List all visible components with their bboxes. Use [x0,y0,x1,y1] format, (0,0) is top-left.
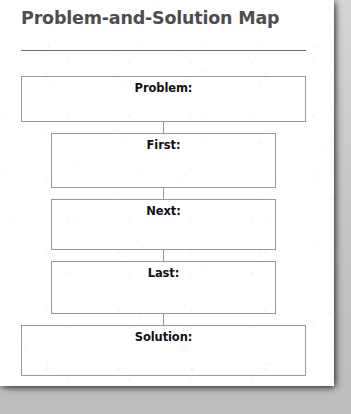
node-first-label: First: [52,138,275,152]
node-solution[interactable]: Solution: [21,325,306,376]
node-next-label: Next: [52,204,275,218]
connector-next-to-last [163,250,164,261]
node-first[interactable]: First: [51,133,276,188]
node-last[interactable]: Last: [51,261,276,314]
node-problem-label: Problem: [22,81,305,95]
connector-last-to-solution [163,314,164,325]
node-next[interactable]: Next: [51,199,276,250]
connector-first-to-next [163,188,164,199]
worksheet-page: Problem-and-Solution Map Problem: First:… [0,0,334,386]
problem-solution-map-diagram: Problem: First: Next: Last: Solution: [0,0,334,386]
node-solution-label: Solution: [22,330,305,344]
connector-problem-to-first [163,122,164,133]
node-problem[interactable]: Problem: [21,76,306,122]
node-last-label: Last: [52,266,275,280]
